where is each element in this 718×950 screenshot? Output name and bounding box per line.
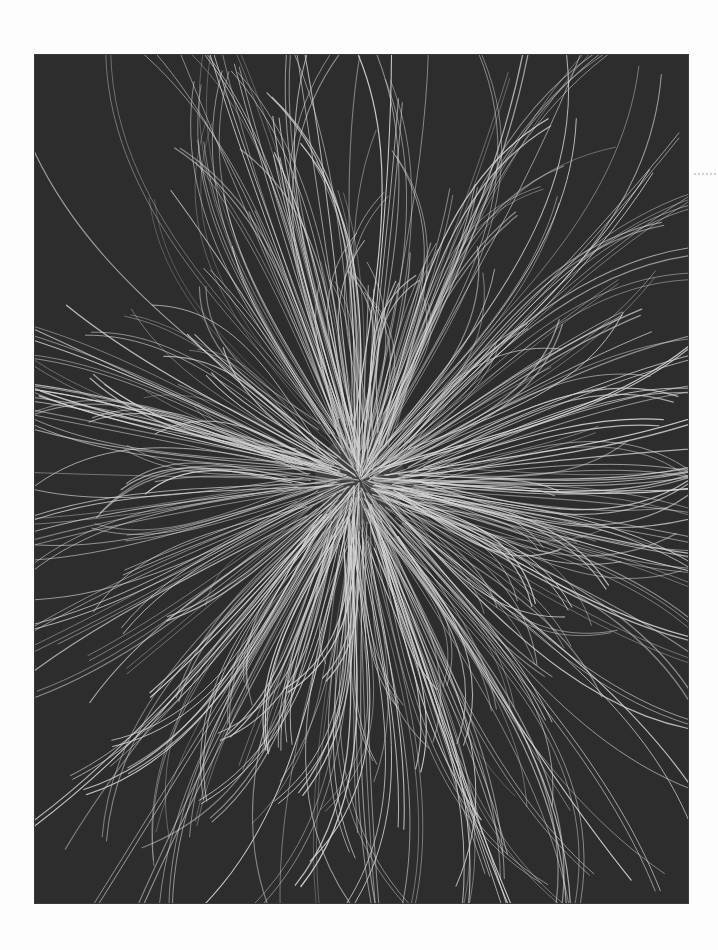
strand [398,417,688,479]
strand [93,532,323,903]
core-glow [315,435,405,525]
strand [370,508,564,903]
strand [411,441,627,477]
strand [382,78,510,431]
strand [224,195,332,421]
strand [35,485,333,548]
dotted-margin-mark [694,173,716,175]
page [0,0,718,950]
radial-strands-drawing [35,55,688,903]
strand [424,419,664,467]
strand [390,75,662,441]
strand [35,482,337,546]
strand [379,512,635,903]
strand [372,532,475,904]
strand [35,482,293,520]
generative-artwork-panel [35,55,688,903]
strand [35,307,323,466]
